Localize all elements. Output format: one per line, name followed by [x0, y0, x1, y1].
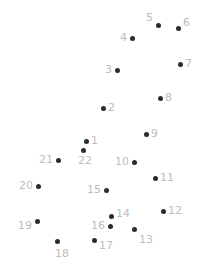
- dot-label-11: 11: [160, 172, 174, 183]
- dot-label-7: 7: [185, 58, 192, 69]
- dot-point-22: [81, 148, 86, 153]
- dot-label-19: 19: [0, 220, 32, 231]
- dot-label-8: 8: [165, 92, 172, 103]
- dot-label-18: 18: [55, 248, 69, 259]
- dot-point-14: [109, 214, 114, 219]
- dot-label-20: 20: [0, 180, 33, 191]
- dot-point-9: [144, 132, 149, 137]
- dot-point-18: [55, 239, 60, 244]
- dot-point-13: [132, 227, 137, 232]
- dot-label-5: 5: [0, 12, 153, 23]
- dot-label-3: 3: [0, 64, 112, 75]
- dot-point-6: [176, 26, 181, 31]
- dot-point-7: [178, 62, 183, 67]
- dot-point-16: [108, 224, 113, 229]
- dot-point-1: [84, 139, 89, 144]
- dot-label-6: 6: [183, 17, 190, 28]
- dot-point-5: [156, 23, 161, 28]
- dot-point-4: [130, 36, 135, 41]
- connect-the-dots-canvas: 12345678910111213141516171819202122: [0, 0, 205, 277]
- dot-point-3: [115, 68, 120, 73]
- dot-label-22: 22: [78, 155, 92, 166]
- dot-label-9: 9: [151, 128, 158, 139]
- dot-point-2: [101, 106, 106, 111]
- dot-label-1: 1: [91, 135, 98, 146]
- dot-point-10: [132, 160, 137, 165]
- dot-label-12: 12: [168, 205, 182, 216]
- dot-point-11: [153, 176, 158, 181]
- dot-label-14: 14: [116, 208, 130, 219]
- dot-point-15: [104, 188, 109, 193]
- dot-label-21: 21: [0, 154, 53, 165]
- dot-label-17: 17: [99, 240, 113, 251]
- dot-point-21: [56, 158, 61, 163]
- dot-point-8: [158, 96, 163, 101]
- dot-point-17: [92, 238, 97, 243]
- dot-point-19: [35, 219, 40, 224]
- dot-label-2: 2: [108, 102, 115, 113]
- dot-label-4: 4: [0, 32, 127, 43]
- dot-point-12: [161, 209, 166, 214]
- dot-point-20: [36, 184, 41, 189]
- dot-label-13: 13: [139, 234, 153, 245]
